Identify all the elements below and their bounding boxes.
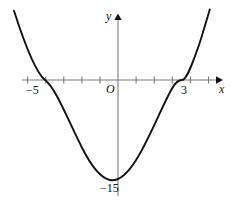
y-axis-arrow-icon [114, 14, 121, 21]
graph-figure: y x O −5 3 −15 [0, 0, 235, 202]
origin-label: O [106, 83, 115, 95]
left-root-label: −5 [26, 84, 39, 96]
right-root-label: 3 [181, 84, 187, 96]
y-axis-label: y [106, 10, 111, 22]
parabola-plot [0, 0, 235, 202]
x-axis-label: x [219, 83, 224, 95]
y-intercept-label: −15 [100, 182, 119, 194]
